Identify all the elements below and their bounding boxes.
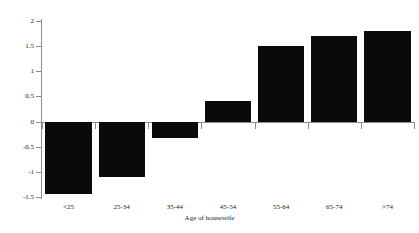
y-axis-tick	[36, 96, 42, 97]
x-axis-category-label: 25-34	[95, 203, 148, 211]
x-axis-tick	[255, 122, 256, 129]
x-axis-tick	[95, 122, 96, 129]
x-axis-category-label: <25	[42, 203, 95, 211]
bar-chart: -1.5-1-0.500.511.52 <2525-3435-4445-5455…	[0, 0, 419, 233]
bar	[364, 31, 410, 122]
x-axis-tick	[308, 122, 309, 129]
y-axis-tick	[36, 21, 42, 22]
y-axis-tick-label: 0	[31, 118, 35, 126]
bar	[311, 36, 357, 121]
bar	[205, 101, 251, 121]
bar	[45, 122, 91, 195]
x-axis-tick	[414, 122, 415, 129]
y-axis-tick-label: -1.5	[23, 193, 34, 201]
y-axis-tick	[36, 197, 42, 198]
bar	[258, 46, 304, 121]
y-axis-tick-label: 1	[31, 67, 35, 75]
y-axis-tick-label: 2	[31, 17, 35, 25]
y-axis-tick-label: 1.5	[25, 42, 34, 50]
y-axis-tick-label: -1	[28, 168, 34, 176]
x-axis-category-label: 55-64	[255, 203, 308, 211]
y-axis-tick	[36, 172, 42, 173]
x-axis-category-label: >74	[361, 203, 414, 211]
x-axis-tick	[42, 122, 43, 129]
x-axis-tick	[361, 122, 362, 129]
x-axis-tick	[201, 122, 202, 129]
bar	[99, 122, 145, 177]
y-axis-tick	[36, 71, 42, 72]
y-axis-tick	[36, 147, 42, 148]
x-axis-category-label: 65-74	[308, 203, 361, 211]
y-axis-tick	[36, 46, 42, 47]
x-axis-category-label: 35-44	[148, 203, 201, 211]
y-axis-tick-label: 0.5	[25, 92, 34, 100]
x-axis-category-label: 45-54	[201, 203, 254, 211]
y-axis-tick-label: -0.5	[23, 143, 34, 151]
x-axis-title: Age of housewife	[0, 214, 419, 222]
x-axis-tick	[148, 122, 149, 129]
bar	[152, 122, 198, 138]
